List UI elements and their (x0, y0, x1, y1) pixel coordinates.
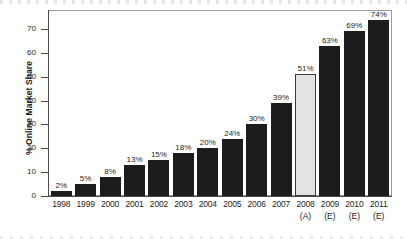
x-axis-year-label: 1998 (49, 199, 73, 210)
bar (319, 46, 340, 196)
bar-value-label: 74% (363, 10, 395, 19)
x-axis-category: 2000 (98, 199, 122, 210)
x-axis-year-label: 2011 (367, 199, 391, 210)
bar (51, 191, 72, 196)
x-axis-category: 2005 (220, 199, 244, 210)
y-axis-tick-label: 60 (14, 49, 36, 57)
x-axis-year-label: 2009 (318, 199, 342, 210)
bar (75, 184, 96, 196)
x-axis-year-label: 2008 (293, 199, 317, 210)
x-axis-category: 2008(A) (293, 199, 317, 223)
y-axis-tick (41, 53, 48, 54)
bar (100, 177, 121, 196)
y-axis-tick-label: 0 (14, 192, 36, 200)
x-axis-year-label: 2005 (220, 199, 244, 210)
x-axis-category: 2001 (122, 199, 146, 210)
bar-slot: 69% (342, 10, 366, 196)
y-axis-tick (41, 148, 48, 149)
x-axis-note-label: (A) (293, 210, 317, 223)
x-axis-year-label: 2002 (147, 199, 171, 210)
bar (368, 20, 389, 196)
bar-slot: 2% (49, 10, 73, 196)
y-axis-tick (41, 124, 48, 125)
x-axis-category: 2007 (269, 199, 293, 210)
bar-value-label: 51% (290, 64, 322, 73)
bar (222, 139, 243, 196)
x-axis-year-label: 2004 (196, 199, 220, 210)
bar (246, 124, 267, 196)
bar-slot: 24% (220, 10, 244, 196)
y-axis-tick (41, 29, 48, 30)
x-axis-category: 2010(E) (342, 199, 366, 223)
bar (344, 31, 365, 196)
bar-value-label: 69% (338, 21, 370, 30)
bar-slot: 8% (98, 10, 122, 196)
bar-slot: 30% (244, 10, 268, 196)
bar-slot: 15% (147, 10, 171, 196)
x-axis-year-label: 1999 (73, 199, 97, 210)
x-axis-spine (48, 196, 392, 197)
bar-value-label: 20% (192, 138, 224, 147)
bar (197, 148, 218, 196)
bar-slot: 18% (171, 10, 195, 196)
bar-value-label: 24% (216, 129, 248, 138)
x-axis-note-label: (E) (367, 210, 391, 223)
x-axis-year-label: 2000 (98, 199, 122, 210)
x-axis-note-label: (E) (342, 210, 366, 223)
y-axis-tick (41, 172, 48, 173)
x-axis-year-label: 2003 (171, 199, 195, 210)
bar-chart: % Online Market Share 010203040506070 2%… (0, 0, 407, 239)
bar-slot: 20% (196, 10, 220, 196)
y-axis-tick-label: 30 (14, 120, 36, 128)
bar (271, 103, 292, 196)
x-axis-year-label: 2006 (244, 199, 268, 210)
x-axis-note-label: (E) (318, 210, 342, 223)
y-axis-tick (41, 196, 48, 197)
bar (295, 74, 316, 196)
bar-slot: 13% (122, 10, 146, 196)
x-axis-category: 2002 (147, 199, 171, 210)
bar-value-label: 39% (265, 93, 297, 102)
x-axis-category: 1998 (49, 199, 73, 210)
x-axis-category: 2004 (196, 199, 220, 210)
y-axis-tick-label: 40 (14, 97, 36, 105)
x-axis-year-label: 2007 (269, 199, 293, 210)
bar (148, 160, 169, 196)
bar-value-label: 30% (241, 114, 273, 123)
x-axis-year-label: 2010 (342, 199, 366, 210)
x-axis-category: 2009(E) (318, 199, 342, 223)
x-axis-labels: 1998199920002001200220032004200520062007… (49, 199, 391, 233)
x-axis-year-label: 2001 (122, 199, 146, 210)
x-axis-category: 2006 (244, 199, 268, 210)
y-axis-tick-label: 70 (14, 25, 36, 33)
bar (173, 153, 194, 196)
bar (124, 165, 145, 196)
bar-slot: 63% (318, 10, 342, 196)
bar-value-label: 8% (94, 167, 126, 176)
bar-slot: 39% (269, 10, 293, 196)
x-axis-category: 1999 (73, 199, 97, 210)
bars-layer: 2%5%8%13%15%18%20%24%30%39%51%63%69%74% (49, 10, 391, 196)
y-axis-tick-label: 10 (14, 168, 36, 176)
y-axis-tick-label: 50 (14, 73, 36, 81)
bar-value-label: 63% (314, 36, 346, 45)
x-axis-category: 2011(E) (367, 199, 391, 223)
x-axis-category: 2003 (171, 199, 195, 210)
bar-slot: 74% (367, 10, 391, 196)
y-axis-tick-label: 20 (14, 144, 36, 152)
y-axis-tick (41, 77, 48, 78)
y-axis-tick (41, 101, 48, 102)
